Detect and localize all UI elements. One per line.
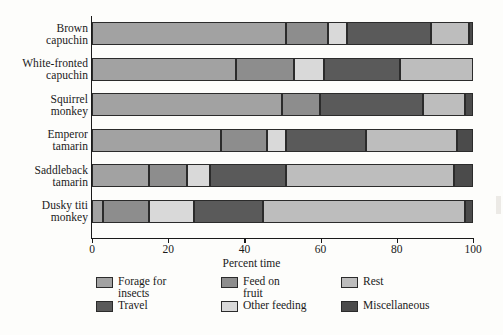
bar-segment	[210, 164, 286, 187]
bar-segment	[263, 200, 465, 223]
bar-segment	[294, 58, 324, 81]
bar-row	[92, 58, 473, 81]
legend-label: Miscellaneous	[363, 300, 429, 312]
bar-segment	[92, 22, 286, 45]
x-axis-line	[91, 238, 474, 239]
bar-segment	[103, 200, 149, 223]
bar-segment	[92, 93, 283, 116]
bar-segment	[286, 129, 366, 152]
bar-segment	[92, 164, 149, 187]
legend-label: Other feeding	[243, 300, 307, 312]
category-label-3: Emperortamarin	[0, 128, 88, 152]
category-label-0: Browncapuchin	[0, 22, 88, 46]
bar-segment	[194, 200, 263, 223]
bar-segment	[149, 200, 195, 223]
category-axis-labels: BrowncapuchinWhite-frontedcapuchinSquirr…	[0, 18, 88, 233]
bar-segment	[286, 22, 328, 45]
legend-item-other-feeding[interactable]: Other feeding	[221, 300, 341, 312]
legend-item-rest[interactable]: Rest	[341, 276, 451, 288]
legend-swatch-icon	[96, 301, 113, 312]
bar-segment	[187, 164, 210, 187]
x-tick-label: 100	[464, 243, 481, 255]
bar-row	[92, 22, 473, 45]
legend-swatch-icon	[341, 277, 358, 288]
bar-segment	[320, 93, 423, 116]
bar-segment	[236, 58, 293, 81]
bar-row	[92, 93, 473, 116]
legend-item-miscellaneous[interactable]: Miscellaneous	[341, 300, 451, 312]
x-tick-label: 60	[315, 243, 327, 255]
x-tick-label: 20	[162, 243, 174, 255]
bar-segment	[423, 93, 465, 116]
bar-segment	[465, 200, 473, 223]
category-label-2: Squirrelmonkey	[0, 93, 88, 117]
bar-segment	[469, 22, 473, 45]
category-label-4: Saddlebacktamarin	[0, 164, 88, 188]
legend-label: Forage for insects	[118, 276, 166, 299]
x-tick-label: 0	[89, 243, 95, 255]
legend-swatch-icon	[221, 301, 238, 312]
legend-label: Rest	[363, 276, 383, 288]
bar-segment	[92, 200, 103, 223]
bar-segment	[431, 22, 469, 45]
legend-item-travel[interactable]: Travel	[96, 300, 221, 312]
legend-label: Feed on fruit	[243, 276, 280, 299]
bar-segment	[366, 129, 457, 152]
legend-swatch-icon	[221, 277, 238, 288]
legend-item-forage-for-insects[interactable]: Forage for insects	[96, 276, 221, 299]
x-tick-label: 40	[239, 243, 251, 255]
chart-legend: Forage for insectsFeed on fruitRestTrave…	[96, 276, 426, 324]
page-edge-artifact	[496, 196, 501, 214]
category-label-5: Dusky titimonkey	[0, 199, 88, 223]
bar-segment	[324, 58, 400, 81]
stacked-bar-chart: BrowncapuchinWhite-frontedcapuchinSquirr…	[0, 0, 503, 335]
bar-segment	[347, 22, 431, 45]
bar-segment	[457, 129, 472, 152]
bar-segment	[454, 164, 473, 187]
bar-row	[92, 164, 473, 187]
bar-segment	[465, 93, 473, 116]
legend-label: Travel	[118, 300, 148, 312]
bar-segment	[221, 129, 267, 152]
bar-segment	[149, 164, 187, 187]
bar-segment	[282, 93, 320, 116]
bar-segment	[328, 22, 347, 45]
legend-swatch-icon	[341, 301, 358, 312]
bar-segment	[286, 164, 454, 187]
bar-segment	[92, 58, 237, 81]
x-axis-title: Percent time	[0, 257, 503, 269]
x-tick-label: 80	[391, 243, 403, 255]
legend-swatch-icon	[96, 277, 113, 288]
legend-item-feed-on-fruit[interactable]: Feed on fruit	[221, 276, 341, 299]
bar-segment	[267, 129, 286, 152]
category-label-1: White-frontedcapuchin	[0, 57, 88, 81]
plot-area	[92, 18, 473, 233]
bar-segment	[400, 58, 472, 81]
bar-row	[92, 129, 473, 152]
bar-segment	[92, 129, 222, 152]
bar-row	[92, 200, 473, 223]
